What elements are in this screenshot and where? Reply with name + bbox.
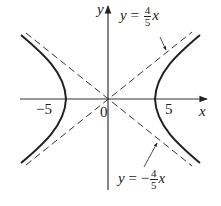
- asymptote-label-negative: y = −45x: [118, 168, 165, 191]
- eq-var: x: [152, 7, 159, 23]
- tick-label-pos-5: 5: [165, 102, 173, 117]
- fraction: 45: [150, 168, 158, 191]
- denominator: 5: [144, 17, 152, 28]
- y-axis-label: y: [97, 2, 104, 17]
- eq-lhs: y: [120, 7, 127, 23]
- x-axis-label: x: [199, 104, 206, 119]
- hyperbola-figure: y x 0 −5 5 y = 45x y = −45x: [0, 0, 221, 206]
- annotation-arrow-negative: [144, 143, 157, 167]
- eq-var: x: [159, 170, 166, 186]
- plot-area: [0, 0, 221, 206]
- eq-lhs: y: [118, 170, 125, 186]
- eq-sign: = −: [125, 170, 149, 186]
- eq-sign: =: [127, 7, 143, 23]
- asymptote-label-positive: y = 45x: [120, 5, 159, 28]
- annotation-arrow-positive: [160, 37, 166, 50]
- fraction: 45: [144, 5, 152, 28]
- tick-label-neg-5: −5: [36, 102, 52, 117]
- denominator: 5: [150, 180, 158, 191]
- origin-label: 0: [100, 105, 108, 120]
